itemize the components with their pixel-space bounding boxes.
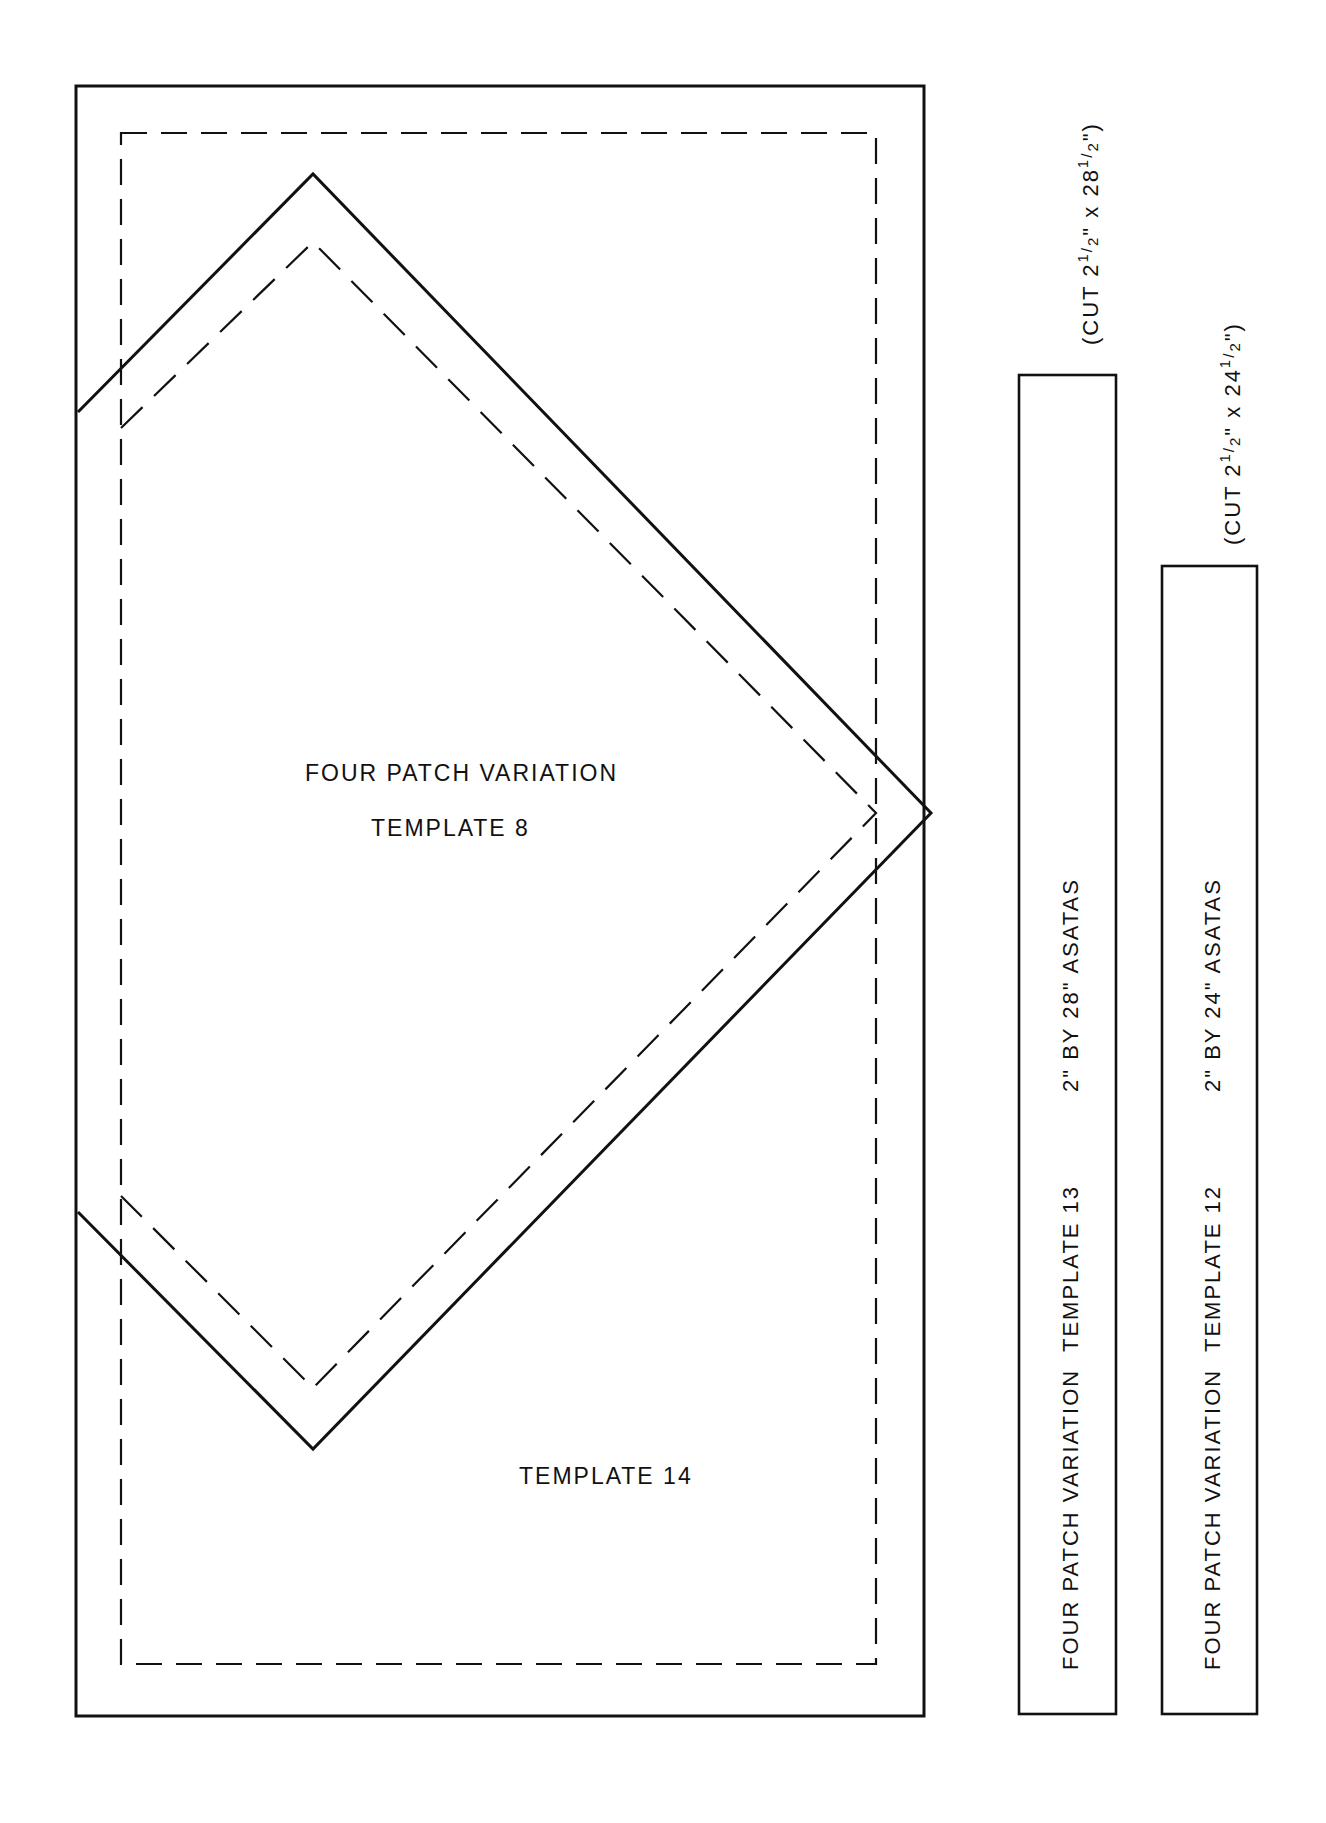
strip-13-pattern-label: FOUR PATCH VARIATION: [1058, 1369, 1083, 1670]
outer-cut-line: [76, 86, 924, 1716]
lower-template-label: TEMPLATE 14: [519, 1463, 693, 1489]
template-drawing: FOUR PATCH VARIATION TEMPLATE 8 TEMPLATE…: [0, 0, 1326, 1823]
strip-template-13: FOUR PATCH VARIATION TEMPLATE 13 2" BY 2…: [1019, 122, 1116, 1714]
strip-13-size-label: 2" BY 28" ASATAS: [1058, 878, 1083, 1092]
strip-12-pattern-label: FOUR PATCH VARIATION: [1200, 1369, 1225, 1670]
diamond-label-pattern: FOUR PATCH VARIATION: [305, 760, 618, 786]
diamond-label-template: TEMPLATE 8: [371, 815, 530, 841]
main-template: FOUR PATCH VARIATION TEMPLATE 8 TEMPLATE…: [76, 86, 931, 1716]
diamond-cut-line: [78, 174, 931, 1449]
quilt-template-sheet: FOUR PATCH VARIATION TEMPLATE 8 TEMPLATE…: [0, 0, 1326, 1823]
seam-line-dashed: [121, 133, 876, 1664]
strip-12-size-label: 2" BY 24" ASATAS: [1200, 878, 1225, 1092]
strip-template-12: FOUR PATCH VARIATION TEMPLATE 12 2" BY 2…: [1162, 322, 1257, 1714]
strip-12-cut-note: (CUT 21/2" x 241/2"): [1216, 322, 1245, 545]
strip-13-cut-note: (CUT 21/2" x 281/2"): [1074, 122, 1103, 345]
svg-text:(CUT 21/2" x 281/2"): (CUT 21/2" x 281/2"): [1074, 122, 1103, 345]
strip-13-template-label: TEMPLATE 13: [1058, 1185, 1083, 1352]
svg-text:(CUT 21/2" x 241/2"): (CUT 21/2" x 241/2"): [1216, 322, 1245, 545]
strip-12-template-label: TEMPLATE 12: [1200, 1185, 1225, 1352]
